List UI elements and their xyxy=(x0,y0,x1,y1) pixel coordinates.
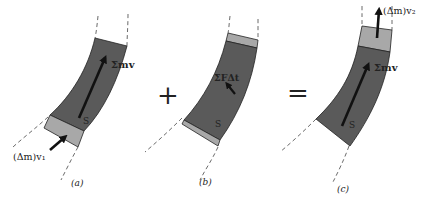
panel-a: Σmv S (Δm)v₁ (a) xyxy=(13,14,136,188)
inflow-label-a: (Δm)v₁ xyxy=(13,151,46,162)
momentum-conservation-diagram: Σmv S (Δm)v₁ (a) + ΣFΔt S (b) = Σmv xyxy=(0,0,428,200)
system-label-c: S xyxy=(349,120,355,130)
outflow-label-c: (Δm)v₂ xyxy=(383,5,416,16)
system-label-b: S xyxy=(215,119,221,129)
inflow-arrow-a xyxy=(50,137,65,150)
momentum-label-c: Σmv xyxy=(374,62,399,73)
caption-c: (c) xyxy=(337,184,350,194)
momentum-label-a: Σmv xyxy=(111,59,136,70)
impulse-label-b: ΣFΔt xyxy=(214,72,240,83)
system-label-a: S xyxy=(83,116,89,126)
caption-a: (a) xyxy=(71,178,84,188)
plus-operator: + xyxy=(157,80,179,110)
equals-operator: = xyxy=(287,78,309,108)
system-region-c xyxy=(316,46,390,146)
caption-b: (b) xyxy=(199,177,212,187)
